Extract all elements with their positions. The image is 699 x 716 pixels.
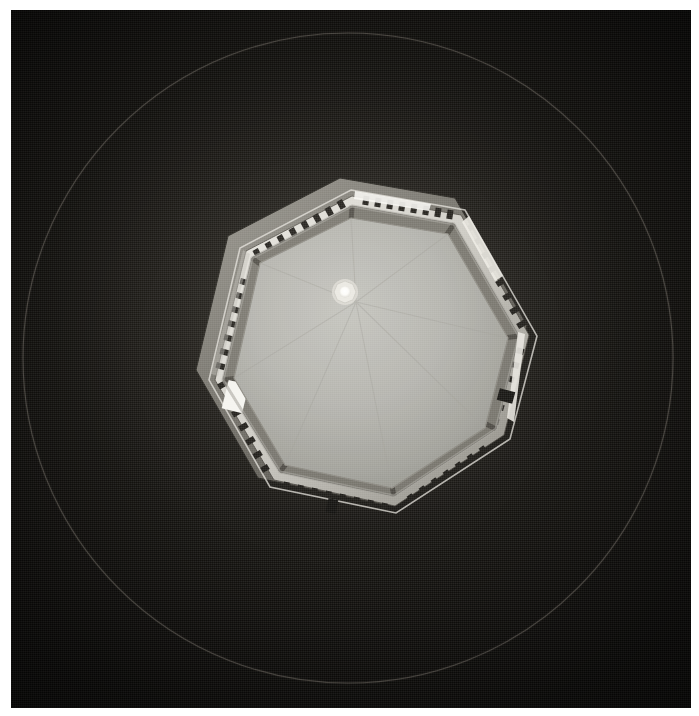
dome-photograph: [11, 10, 691, 708]
photograph-plate: [11, 10, 691, 708]
oculus-core: [339, 286, 351, 298]
photo-frame: Octagonal dome interior seen from below: [0, 0, 699, 716]
oculus-group: [332, 279, 358, 305]
